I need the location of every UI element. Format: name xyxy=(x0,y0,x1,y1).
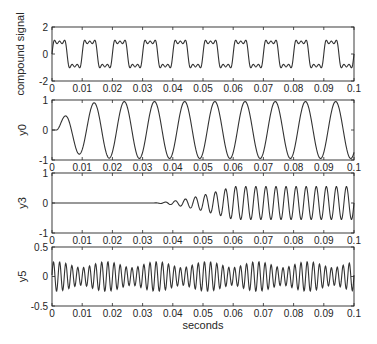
y-tick-label: -0.5 xyxy=(31,301,49,312)
x-tick-label: 0.02 xyxy=(103,162,123,173)
x-tick-label: 0.06 xyxy=(223,308,243,319)
y-axis-label: y3 xyxy=(16,197,28,209)
axes-group: 00.010.020.030.040.050.060.070.080.090.1… xyxy=(14,12,361,319)
x-tick-label: 0.09 xyxy=(314,308,334,319)
y-tick-label: 0 xyxy=(42,49,48,60)
x-tick-label: 0.03 xyxy=(133,83,153,94)
x-tick-label: 0.09 xyxy=(314,235,334,246)
series-line xyxy=(52,102,354,159)
series-line xyxy=(52,262,354,291)
y-axis-label: compound signal xyxy=(14,12,26,95)
x-tick-label: 0.04 xyxy=(163,235,183,246)
y-tick-label: -1 xyxy=(39,155,48,166)
y-axis-label: y0 xyxy=(16,124,28,136)
x-tick-label: 0.01 xyxy=(72,83,92,94)
x-axis-label: seconds xyxy=(183,319,224,331)
x-tick-label: 0.1 xyxy=(347,162,361,173)
subplot-y0: 00.010.020.030.040.050.060.070.080.090.1… xyxy=(16,95,361,174)
x-tick-label: 0 xyxy=(49,308,55,319)
x-tick-label: 0.05 xyxy=(193,308,213,319)
x-tick-label: 0 xyxy=(49,235,55,246)
y-tick-label: 0.5 xyxy=(34,242,48,253)
subplot-y5: 00.010.020.030.040.050.060.070.080.090.1… xyxy=(16,242,361,320)
subplot-compound-signal: 00.010.020.030.040.050.060.070.080.090.1… xyxy=(14,12,361,95)
x-tick-label: 0.08 xyxy=(284,235,304,246)
y-tick-label: -1 xyxy=(39,228,48,239)
x-tick-label: 0.02 xyxy=(103,83,123,94)
x-tick-label: 0.08 xyxy=(284,162,304,173)
x-tick-label: 0.03 xyxy=(133,235,153,246)
x-tick-label: 0.05 xyxy=(193,162,213,173)
x-tick-label: 0.06 xyxy=(223,235,243,246)
y-tick-label: 0 xyxy=(42,125,48,136)
figure: 00.010.020.030.040.050.060.070.080.090.1… xyxy=(0,0,377,344)
y-tick-label: 0 xyxy=(42,271,48,282)
x-tick-label: 0.03 xyxy=(133,308,153,319)
x-tick-label: 0.09 xyxy=(314,83,334,94)
x-tick-label: 0.05 xyxy=(193,235,213,246)
x-tick-label: 0.01 xyxy=(72,162,92,173)
x-tick-label: 0.07 xyxy=(254,162,274,173)
x-tick-label: 0.07 xyxy=(254,308,274,319)
x-tick-label: 0.1 xyxy=(347,83,361,94)
y-tick-label: 0 xyxy=(42,198,48,209)
x-tick-label: 0.06 xyxy=(223,162,243,173)
y-axis-label: y5 xyxy=(16,271,28,283)
series-line xyxy=(52,187,354,220)
x-tick-label: 0 xyxy=(49,162,55,173)
subplot-y3: 00.010.020.030.040.050.060.070.080.090.1… xyxy=(16,168,361,247)
series-line xyxy=(52,40,354,68)
x-tick-label: 0.02 xyxy=(103,308,123,319)
x-tick-label: 0.04 xyxy=(163,308,183,319)
x-tick-label: 0.01 xyxy=(72,308,92,319)
x-tick-label: 0.07 xyxy=(254,83,274,94)
x-tick-label: 0.05 xyxy=(193,83,213,94)
x-tick-label: 0.1 xyxy=(347,308,361,319)
x-tick-label: 0.1 xyxy=(347,235,361,246)
x-tick-label: 0.09 xyxy=(314,162,334,173)
y-tick-label: 1 xyxy=(42,168,48,179)
x-tick-label: 0.04 xyxy=(163,162,183,173)
y-tick-label: -2 xyxy=(39,76,48,87)
x-tick-label: 0.08 xyxy=(284,83,304,94)
x-tick-label: 0.06 xyxy=(223,83,243,94)
x-tick-label: 0.03 xyxy=(133,162,153,173)
x-tick-label: 0.02 xyxy=(103,235,123,246)
x-tick-label: 0 xyxy=(49,83,55,94)
y-tick-label: 2 xyxy=(42,22,48,33)
x-tick-label: 0.01 xyxy=(72,235,92,246)
x-tick-label: 0.07 xyxy=(254,235,274,246)
y-tick-label: 1 xyxy=(42,95,48,106)
x-tick-label: 0.08 xyxy=(284,308,304,319)
x-tick-label: 0.04 xyxy=(163,83,183,94)
